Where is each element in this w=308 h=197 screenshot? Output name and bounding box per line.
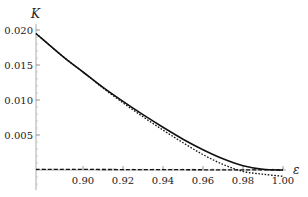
x-tick-label: 0.96 bbox=[192, 175, 214, 186]
x-tick-label: 0.94 bbox=[152, 175, 174, 186]
x-axis-label: ε bbox=[293, 163, 299, 177]
chart: 0.0050.0100.0150.020 0.900.920.940.960.9… bbox=[0, 0, 308, 197]
y-tick-label: 0.015 bbox=[4, 60, 33, 71]
y-tick-label: 0.010 bbox=[4, 95, 33, 106]
x-tick-label: 0.92 bbox=[112, 175, 134, 186]
y-tick-label: 0.005 bbox=[4, 130, 33, 141]
x-tick-label: 0.98 bbox=[232, 175, 254, 186]
series-group bbox=[36, 34, 283, 177]
y-tick-label: 0.020 bbox=[4, 25, 33, 36]
series-solid-line bbox=[36, 34, 283, 171]
y-axis: 0.0050.0100.0150.020 bbox=[4, 24, 40, 190]
x-tick-label: 0.90 bbox=[72, 175, 94, 186]
y-axis-label: K bbox=[30, 7, 41, 21]
x-tick-label: 1.00 bbox=[272, 175, 294, 186]
series-dotted-line bbox=[36, 34, 283, 177]
